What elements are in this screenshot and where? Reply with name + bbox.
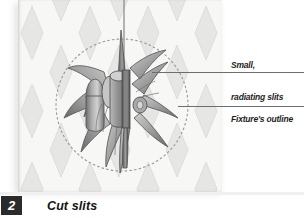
step-number-badge: 2: [1, 196, 22, 215]
figure-caption: Cut slits: [47, 197, 97, 215]
caption-row: 2 Cut slits: [0, 196, 304, 218]
fixture-body: [64, 30, 178, 173]
fixture-illustration: [18, 0, 222, 193]
caption-divider: [0, 192, 304, 195]
callout-outline-line1: Fixture's outline: [231, 114, 293, 125]
figure-root: Small, radiating slits Fixture's outline…: [0, 0, 304, 218]
paper-sheet: [18, 0, 222, 193]
callout-fixtures-outline: Fixture's outline: [231, 93, 293, 146]
callout-slits-line1: Small,: [231, 60, 283, 71]
